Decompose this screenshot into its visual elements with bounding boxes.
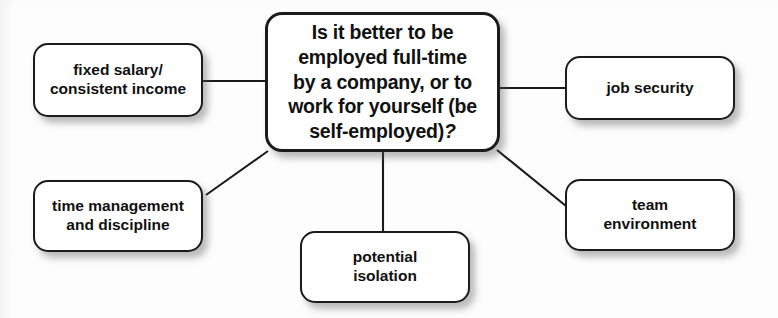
- branch-line-1-time-management: time management: [52, 197, 184, 214]
- central-question-line-5: self-employed): [309, 120, 444, 142]
- central-question-line-2: employed full-time: [298, 46, 467, 68]
- branch-label-job-security: job security: [601, 79, 700, 98]
- central-question-line-1: Is it better to be: [312, 21, 454, 43]
- branch-label-fixed-salary: fixed salary/consistent income: [44, 61, 192, 99]
- branch-label-potential-isolation: potentialisolation: [347, 248, 424, 286]
- branch-node-team-environment: teamenvironment: [565, 179, 735, 251]
- branch-node-job-security: job security: [565, 56, 735, 120]
- diagram-canvas: Is it better to beemployed full-timeby a…: [0, 0, 778, 318]
- connector-central-to-team-environment: [497, 150, 566, 206]
- central-question-line-3: by a company, or to: [293, 71, 472, 93]
- central-question-mark: ?: [444, 120, 456, 142]
- branch-line-1-fixed-salary: fixed salary/: [73, 61, 163, 78]
- branch-node-time-management: time managementand discipline: [33, 180, 203, 252]
- branch-line-1-job-security: job security: [607, 79, 694, 96]
- central-question-label: Is it better to beemployed full-timeby a…: [282, 20, 483, 144]
- branch-label-team-environment: teamenvironment: [597, 196, 702, 234]
- central-question-line-4: work for yourself (be: [288, 95, 477, 117]
- branch-line-2-team-environment: environment: [603, 215, 696, 232]
- branch-label-time-management: time managementand discipline: [46, 197, 190, 235]
- connector-central-to-time-management: [206, 151, 268, 195]
- central-question-node: Is it better to beemployed full-timeby a…: [265, 12, 500, 152]
- branch-line-1-potential-isolation: potential: [353, 248, 418, 265]
- branch-line-2-time-management: and discipline: [66, 216, 169, 233]
- branch-line-2-potential-isolation: isolation: [353, 267, 417, 284]
- branch-line-2-fixed-salary: consistent income: [50, 80, 186, 97]
- branch-node-potential-isolation: potentialisolation: [300, 231, 470, 303]
- branch-node-fixed-salary: fixed salary/consistent income: [33, 43, 203, 117]
- branch-line-1-team-environment: team: [632, 196, 668, 213]
